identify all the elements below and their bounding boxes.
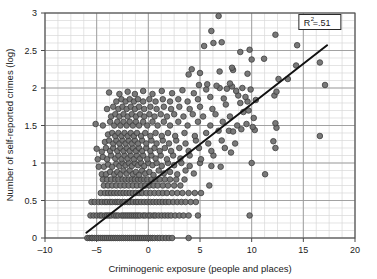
- y-tick-label: 3: [32, 8, 37, 18]
- data-point: [232, 141, 238, 147]
- data-point: [169, 235, 175, 241]
- data-point: [155, 123, 161, 129]
- data-point: [174, 171, 180, 177]
- data-point: [164, 190, 170, 196]
- y-tick-label: 2: [32, 83, 37, 93]
- x-tick-label: –5: [92, 245, 102, 255]
- data-point: [261, 56, 267, 62]
- data-point: [191, 171, 197, 177]
- data-point: [186, 190, 192, 196]
- data-point: [155, 183, 161, 189]
- data-point: [317, 60, 323, 66]
- data-point: [207, 183, 213, 189]
- data-point: [159, 163, 165, 169]
- data-point: [168, 106, 174, 112]
- x-axis-title: Criminogenic exposure (people and places…: [108, 263, 291, 274]
- data-point: [322, 82, 328, 88]
- y-tick-label: 0: [32, 233, 37, 243]
- data-point: [171, 111, 177, 117]
- data-point: [203, 87, 209, 93]
- data-point: [187, 163, 193, 169]
- data-point: [143, 141, 149, 147]
- y-tick-label: 0.5: [24, 196, 37, 206]
- r-squared-label: R =.51: [304, 18, 331, 28]
- data-point: [209, 148, 215, 154]
- data-point: [169, 190, 175, 196]
- data-point: [251, 115, 257, 121]
- data-point: [229, 65, 235, 71]
- data-point: [96, 164, 102, 170]
- data-point: [217, 69, 223, 75]
- data-point: [183, 141, 189, 147]
- x-tick-label: 5: [197, 245, 202, 255]
- data-point: [93, 121, 99, 127]
- data-point: [219, 39, 225, 45]
- data-point: [154, 141, 160, 147]
- data-point: [114, 99, 120, 105]
- data-point: [222, 145, 228, 151]
- data-point: [153, 99, 159, 105]
- data-point: [240, 85, 246, 91]
- data-point: [273, 32, 279, 38]
- x-tick-label: –10: [37, 245, 52, 255]
- data-point: [228, 150, 234, 156]
- data-point: [154, 106, 160, 112]
- data-point: [161, 119, 167, 125]
- data-point: [162, 145, 168, 151]
- data-point: [183, 168, 189, 174]
- data-point: [95, 156, 101, 162]
- data-point: [180, 190, 186, 196]
- data-point: [197, 104, 203, 110]
- data-point: [209, 163, 215, 169]
- data-point: [274, 89, 280, 95]
- data-point: [140, 88, 146, 94]
- data-point: [117, 91, 123, 97]
- data-point: [186, 235, 192, 241]
- data-point: [153, 130, 159, 136]
- data-point: [248, 87, 254, 93]
- data-point: [234, 123, 240, 129]
- data-point: [125, 89, 131, 95]
- data-point: [178, 183, 184, 189]
- data-point: [210, 106, 216, 112]
- data-point: [148, 104, 154, 110]
- data-point: [132, 91, 138, 97]
- data-point: [227, 81, 233, 87]
- data-point: [142, 130, 148, 136]
- data-point: [192, 133, 198, 139]
- data-point: [230, 129, 236, 135]
- data-point: [273, 120, 279, 126]
- data-point: [181, 114, 187, 120]
- data-point: [192, 190, 198, 196]
- data-point: [173, 177, 179, 183]
- x-tick-label: 10: [247, 245, 257, 255]
- data-point: [152, 114, 158, 120]
- data-point: [197, 70, 203, 76]
- data-point: [294, 42, 300, 48]
- data-point: [247, 47, 253, 53]
- data-point: [213, 111, 219, 117]
- data-point: [110, 104, 116, 110]
- data-point: [135, 96, 141, 102]
- data-point: [177, 145, 183, 151]
- data-point: [94, 146, 100, 152]
- data-point: [148, 133, 154, 139]
- data-point: [221, 96, 227, 102]
- data-point: [151, 172, 157, 178]
- data-point: [244, 121, 250, 127]
- data-point: [195, 213, 201, 219]
- data-point: [214, 83, 220, 89]
- data-point: [250, 124, 256, 130]
- x-tick-label: 0: [146, 245, 151, 255]
- data-point: [249, 160, 255, 166]
- data-point: [169, 90, 175, 96]
- data-point: [106, 90, 112, 96]
- data-point: [198, 156, 204, 162]
- data-point: [167, 177, 173, 183]
- data-point: [164, 114, 170, 120]
- data-point: [223, 102, 229, 108]
- data-point: [271, 138, 277, 144]
- data-point: [185, 123, 191, 129]
- data-point: [165, 183, 171, 189]
- data-point: [200, 114, 206, 120]
